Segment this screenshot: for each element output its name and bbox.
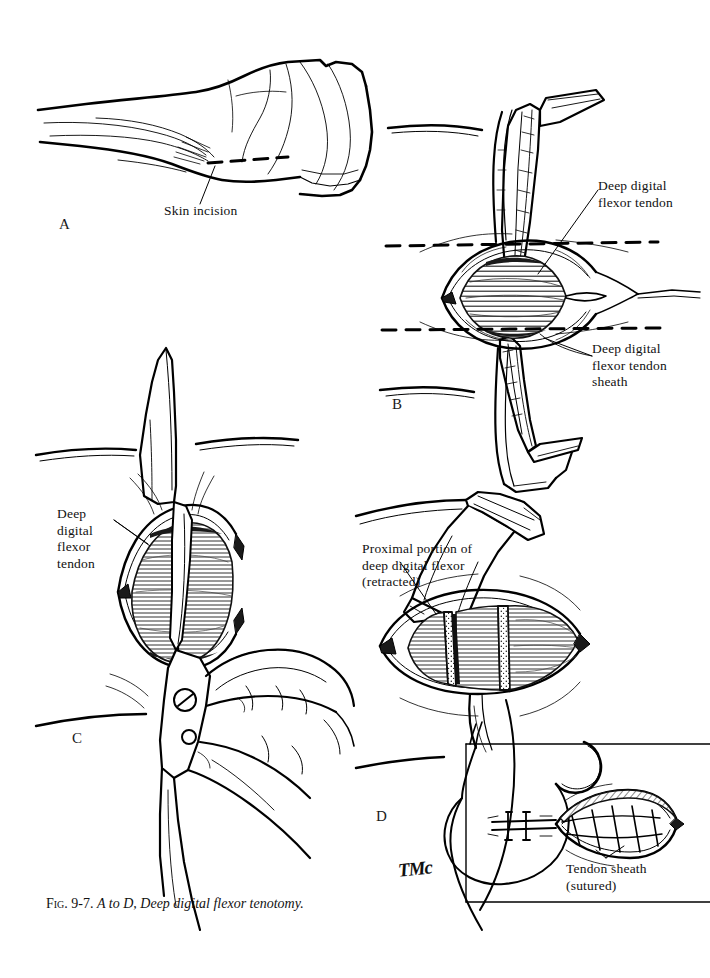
label-deep-digital-flexor-tendon-b: Deep digital flexor tendon [598,178,673,211]
panel-b-artwork [380,90,700,492]
panel-letter-d: D [376,808,387,825]
figure-artwork [0,0,710,978]
artist-signature: TMc [397,856,433,881]
label-skin-incision: Skin incision [164,203,237,220]
panel-letter-c: C [72,730,82,747]
panel-letter-b: B [392,396,402,413]
caption-title: Deep digital flexor tenotomy. [140,896,303,911]
panel-letter-a: A [59,216,70,233]
label-deep-digital-flexor-tendon-c: Deep digital flexor tendon [57,506,95,572]
label-proximal-portion-deep-digital-flexor: Proximal portion of deep digital flexor … [362,541,472,591]
caption-fig-prefix: Fig. [46,896,68,911]
label-tendon-sheath-sutured: Tendon sheath (sutured) [566,861,647,894]
figure-caption: Fig. 9-7. A to D, Deep digital flexor te… [46,896,304,912]
figure-page: Skin incision A Deep digital flexor tend… [0,0,710,978]
panel-a-artwork [38,60,372,204]
caption-number: 9-7. [71,896,93,911]
caption-range: A to D, [97,896,137,911]
panel-c-artwork [36,348,354,930]
label-deep-digital-flexor-tendon-sheath: Deep digital flexor tendon sheath [592,341,667,391]
